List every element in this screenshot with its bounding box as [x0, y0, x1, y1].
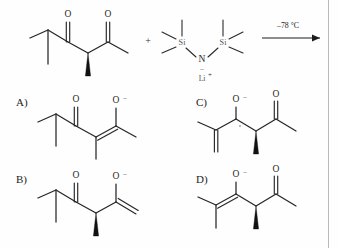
silicon-label-left: Si [179, 38, 187, 47]
option-d-wedge-methyl [253, 206, 258, 229]
option-b-label: B) [16, 173, 27, 186]
lithium-label: Li [199, 74, 206, 83]
nitrogen-label: N [199, 54, 206, 64]
option-b-oxygen-enolate: O [113, 171, 120, 181]
lithium-positive-charge: + [208, 71, 212, 79]
option-c-oxygen-ketone: O [273, 89, 280, 99]
option-d-label: D) [196, 173, 208, 186]
option-d-oxygen-enolate: O [233, 169, 240, 179]
reaction-scheme-svg: O O + Si N – [0, 0, 337, 248]
option-a-negative-charge: – [122, 94, 127, 102]
chemistry-scheme-sheet: O O + Si N – [0, 0, 337, 248]
wedge-methyl-bond [85, 53, 90, 76]
oxygen-label-left: O [65, 9, 72, 19]
option-a-oxygen-enolate: O [113, 95, 120, 105]
option-a-oxygen-ketone: O [73, 94, 80, 104]
option-c-oxygen-enolate: O [233, 94, 240, 104]
option-b-negative-charge: – [122, 170, 127, 178]
option-b-group[interactable]: B) O O – [16, 170, 138, 236]
option-a-label: A) [16, 96, 28, 109]
option-d-negative-charge: – [242, 168, 247, 176]
nitrogen-negative-charge: – [199, 65, 204, 73]
option-c-wedge-methyl [253, 131, 258, 154]
reaction-conditions-label: –78 °C [276, 21, 299, 30]
option-a-structure: O O – [38, 94, 136, 159]
option-c-group[interactable]: C) O – [196, 89, 296, 154]
option-c-label: C) [196, 96, 207, 109]
option-d-oxygen-ketone: O [273, 164, 280, 174]
lihmds-reagent-structure: Si N – Si Li + [162, 20, 243, 83]
silicon-label-right: Si [220, 38, 228, 47]
option-b-oxygen-ketone: O [73, 170, 80, 180]
option-a-group[interactable]: A) O O – [16, 94, 136, 159]
option-d-group[interactable]: D) O – [196, 164, 296, 229]
option-d-structure: O – O [198, 164, 296, 229]
option-c-structure: O – O [198, 89, 296, 154]
starting-material-structure: O O [30, 9, 128, 76]
oxygen-label-right: O [105, 9, 112, 19]
option-c-negative-charge: – [242, 93, 247, 101]
option-b-structure: O O – [38, 170, 138, 236]
plus-symbol: + [145, 35, 151, 46]
option-b-wedge-methyl [93, 213, 98, 236]
reaction-arrow-group: –78 °C [262, 21, 320, 42]
option-c-stereocenter-dot [239, 125, 241, 127]
reaction-arrow-head [312, 35, 320, 42]
